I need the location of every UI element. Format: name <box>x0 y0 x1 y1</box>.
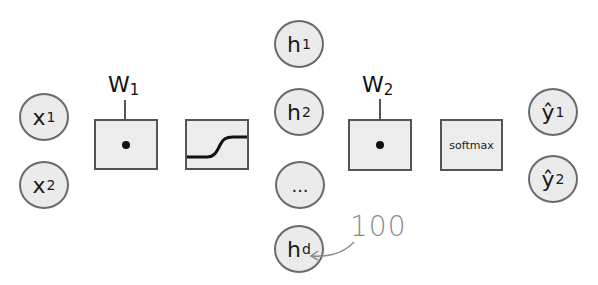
annotation-arrow-icon <box>0 0 598 285</box>
